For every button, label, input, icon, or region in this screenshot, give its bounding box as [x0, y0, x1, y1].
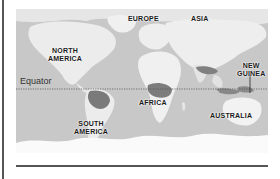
label-asia: ASIA — [191, 15, 209, 23]
label-line: SOUTH — [74, 120, 108, 128]
label-south-america: SOUTH AMERICA — [74, 120, 108, 136]
label-line: AMERICA — [74, 128, 108, 136]
label-line: AUSTRALIA — [210, 112, 252, 120]
left-border-rule — [2, 0, 4, 179]
label-line: NEW — [237, 62, 265, 70]
label-north-america: NORTH AMERICA — [48, 47, 82, 63]
label-australia: AUSTRALIA — [210, 112, 252, 120]
label-line: ASIA — [191, 15, 209, 23]
label-africa: AFRICA — [139, 99, 167, 107]
label-line: NORTH — [48, 47, 82, 55]
label-line: AFRICA — [139, 99, 167, 107]
label-line: AMERICA — [48, 55, 82, 63]
bottom-rule — [16, 165, 268, 167]
label-new-guinea: NEW GUINEA — [237, 62, 265, 78]
label-europe: EUROPE — [128, 15, 159, 23]
label-line: EUROPE — [128, 15, 159, 23]
label-line: GUINEA — [237, 70, 265, 78]
equator-label: Equator — [20, 76, 52, 86]
world-map — [16, 9, 268, 153]
map-graphic — [16, 9, 268, 153]
